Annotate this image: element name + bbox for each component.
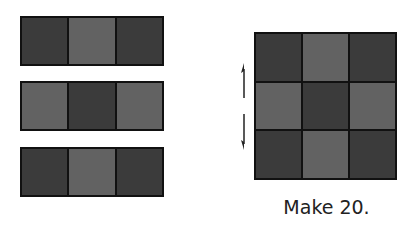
quilt-grid <box>254 32 397 180</box>
grid-cell-dark <box>303 83 348 130</box>
strip-cell-dark <box>115 149 162 195</box>
grid-cell-dark <box>256 131 301 178</box>
arrow-up-icon <box>238 63 250 99</box>
strip-cell-light <box>67 149 114 195</box>
strip-2 <box>20 81 164 131</box>
arrow-down-icon <box>238 114 250 150</box>
grid-cell-dark <box>256 34 301 81</box>
grid-cell-light <box>303 34 348 81</box>
grid-cell-dark <box>350 131 395 178</box>
grid-cell-light <box>256 83 301 130</box>
strip-cell-light <box>22 83 67 129</box>
strip-cell-light <box>115 83 162 129</box>
caption: Make 20. <box>254 196 399 218</box>
strip-cell-dark <box>67 83 114 129</box>
strip-cell-dark <box>115 18 162 64</box>
grid-cell-light <box>350 83 395 130</box>
strip-cell-dark <box>22 18 67 64</box>
grid-cell-dark <box>350 34 395 81</box>
strip-1 <box>20 16 164 66</box>
strip-cell-light <box>67 18 114 64</box>
strip-3 <box>20 147 164 197</box>
grid-cell-light <box>303 131 348 178</box>
strip-cell-dark <box>22 149 67 195</box>
